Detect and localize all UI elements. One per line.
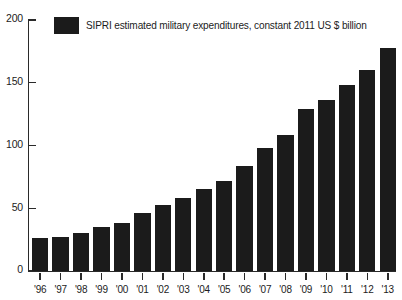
bar: [155, 205, 171, 272]
x-axis-label: '00: [116, 283, 128, 296]
x-axis-tick: [346, 273, 348, 280]
bar: [32, 238, 48, 271]
y-axis-tick-label: 0: [17, 263, 23, 276]
bar: [277, 135, 293, 271]
x-axis-tick: [244, 273, 246, 280]
y-axis-tick-label: 50: [12, 201, 23, 214]
x-axis-label: '04: [198, 283, 210, 296]
bar: [73, 233, 89, 271]
y-axis-tick-label: 200: [6, 12, 23, 25]
x-axis-label: '10: [320, 283, 332, 296]
x-axis-tick: [183, 273, 185, 280]
x-axis-label: '05: [218, 283, 230, 296]
bar: [318, 100, 334, 271]
x-axis-tick: [326, 273, 328, 280]
x-axis-tick: [264, 273, 266, 280]
x-axis-tick: [305, 273, 307, 280]
x-axis-label: '09: [300, 283, 312, 296]
bar-chart: SIPRI estimated military expenditures, c…: [0, 0, 402, 300]
bar-series: [28, 20, 396, 271]
x-axis-label: '07: [259, 283, 271, 296]
x-axis-label: '06: [238, 283, 250, 296]
x-axis-label: '96: [34, 283, 46, 296]
x-axis-tick: [60, 273, 62, 280]
x-axis-label: '02: [157, 283, 169, 296]
x-axis-label: '99: [95, 283, 107, 296]
x-axis-label: '01: [136, 283, 148, 296]
bar: [339, 85, 355, 271]
bar: [236, 166, 252, 271]
bar: [257, 148, 273, 271]
x-axis-labels: '96'97'98'99'00'01'02'03'04'05'06'07'08'…: [28, 283, 396, 299]
y-axis-tick-label: 150: [6, 75, 23, 88]
bar: [175, 198, 191, 271]
bar: [359, 70, 375, 271]
x-axis-tick: [80, 273, 82, 280]
x-axis-tick: [142, 273, 144, 280]
x-axis-tick: [285, 273, 287, 280]
x-axis-label: '11: [341, 283, 353, 296]
x-axis-label: '08: [279, 283, 291, 296]
plot-area: 050100150200 '96'97'98'99'00'01'02'03'04…: [28, 20, 396, 271]
x-axis-tick: [121, 273, 123, 280]
x-axis-label: '13: [382, 283, 394, 296]
x-axis-tick: [39, 273, 41, 280]
y-axis-tick-label: 100: [6, 138, 23, 151]
bar: [134, 213, 150, 271]
x-axis-tick: [223, 273, 225, 280]
bar: [114, 223, 130, 271]
x-axis-label: '98: [75, 283, 87, 296]
bar: [196, 189, 212, 271]
x-axis-tick: [387, 273, 389, 280]
x-axis-tick: [367, 273, 369, 280]
x-axis-label: '12: [361, 283, 373, 296]
x-axis-ticks: [28, 273, 396, 281]
bar: [216, 181, 232, 271]
x-axis-label: '97: [54, 283, 66, 296]
bar: [380, 48, 396, 271]
bar: [93, 227, 109, 271]
x-axis-label: '03: [177, 283, 189, 296]
x-axis-tick: [162, 273, 164, 280]
bar: [52, 237, 68, 271]
bar: [298, 109, 314, 271]
x-axis-tick: [203, 273, 205, 280]
x-axis-tick: [101, 273, 103, 280]
